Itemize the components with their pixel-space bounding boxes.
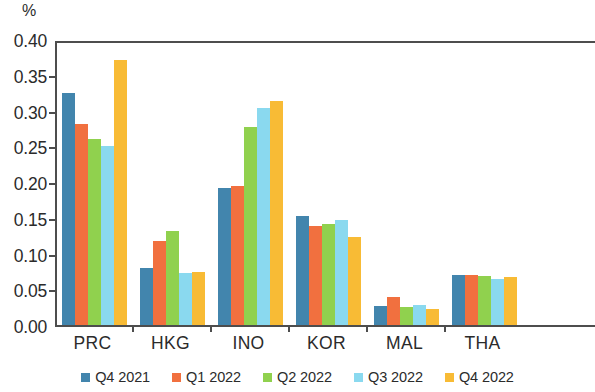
bar <box>231 186 244 325</box>
bar <box>88 139 101 325</box>
y-axis-tick-label: 0.15 <box>0 209 47 230</box>
bar <box>153 241 166 325</box>
bar <box>426 309 439 325</box>
legend-label: Q3 2022 <box>368 369 423 385</box>
bar <box>478 276 491 325</box>
y-axis-unit-label: % <box>22 2 36 20</box>
bar-group <box>374 43 439 325</box>
x-axis-tick-mark <box>444 327 446 332</box>
y-axis-tick-label: 0.35 <box>0 66 47 87</box>
bar <box>504 277 517 325</box>
legend-item[interactable]: Q4 2021 <box>81 369 150 385</box>
bar <box>452 275 465 325</box>
bar-chart: % 0.000.050.100.150.200.250.300.350.40 P… <box>0 0 595 392</box>
legend-item[interactable]: Q1 2022 <box>172 369 241 385</box>
legend-label: Q1 2022 <box>186 369 241 385</box>
bar-group <box>452 43 517 325</box>
chart-legend: Q4 2021Q1 2022Q2 2022Q3 2022Q4 2022 <box>0 369 595 385</box>
y-axis-tick-label: 0.40 <box>0 31 47 52</box>
bar <box>75 124 88 325</box>
bar <box>374 306 387 325</box>
bar <box>348 237 361 325</box>
bar-group <box>296 43 361 325</box>
bar <box>101 146 114 325</box>
legend-item[interactable]: Q2 2022 <box>263 369 332 385</box>
bar <box>309 226 322 325</box>
bar <box>192 272 205 325</box>
x-axis-tick-mark <box>288 327 290 332</box>
y-axis-tick-label: 0.30 <box>0 102 47 123</box>
x-axis-category-label: THA <box>423 333 543 354</box>
bar <box>335 220 348 325</box>
legend-item[interactable]: Q3 2022 <box>354 369 423 385</box>
legend-swatch-icon <box>445 373 454 382</box>
bar <box>257 108 270 325</box>
bar <box>140 268 153 325</box>
bar <box>387 297 400 325</box>
bar <box>322 224 335 325</box>
bar <box>400 307 413 325</box>
bar <box>62 93 75 325</box>
bar <box>114 60 127 325</box>
bar <box>296 216 309 325</box>
legend-swatch-icon <box>263 373 272 382</box>
bar <box>244 127 257 325</box>
x-axis-tick-mark <box>210 327 212 332</box>
bar <box>218 188 231 325</box>
y-axis-tick-label: 0.05 <box>0 281 47 302</box>
legend-swatch-icon <box>81 373 90 382</box>
x-axis-tick-mark <box>366 327 368 332</box>
bar <box>179 273 192 325</box>
y-axis-tick-label: 0.25 <box>0 138 47 159</box>
bar <box>166 231 179 325</box>
bar-group <box>218 43 283 325</box>
y-axis-tick-label: 0.10 <box>0 245 47 266</box>
legend-swatch-icon <box>354 373 363 382</box>
x-axis-tick-mark <box>132 327 134 332</box>
legend-swatch-icon <box>172 373 181 382</box>
plot-area <box>55 41 595 327</box>
bar-group <box>140 43 205 325</box>
bar <box>270 101 283 325</box>
bar <box>491 279 504 325</box>
legend-label: Q2 2022 <box>277 369 332 385</box>
legend-label: Q4 2021 <box>95 369 150 385</box>
y-axis-tick-label: 0.20 <box>0 174 47 195</box>
legend-item[interactable]: Q4 2022 <box>445 369 514 385</box>
bar-group <box>62 43 127 325</box>
bar <box>413 305 426 325</box>
legend-label: Q4 2022 <box>459 369 514 385</box>
bar <box>465 275 478 325</box>
